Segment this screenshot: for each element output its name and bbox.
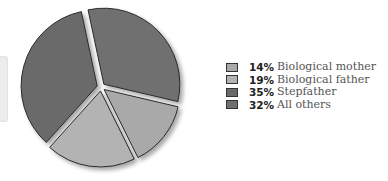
chart-legend: 14% Biological mother 19% Biological fat… — [226, 61, 386, 111]
legend-label: Stepfather — [277, 86, 336, 98]
legend-swatch — [226, 100, 238, 109]
legend-item-biological-mother: 14% Biological mother — [226, 61, 386, 74]
pie-chart-svg — [0, 0, 210, 181]
slice-all-others — [88, 8, 180, 101]
legend-percent: 32% — [249, 99, 277, 111]
legend-percent: 35% — [249, 86, 277, 98]
legend-swatch — [226, 88, 238, 97]
legend-percent: 14% — [249, 61, 277, 73]
legend-label: Biological father — [277, 74, 370, 86]
pie-chart — [0, 0, 210, 181]
legend-item-stepfather: 35% Stepfather — [226, 86, 386, 99]
legend-percent: 19% — [249, 74, 277, 86]
legend-item-all-others: 32% All others — [226, 99, 386, 112]
legend-label: Biological mother — [277, 61, 376, 73]
legend-swatch — [226, 63, 238, 72]
legend-swatch — [226, 75, 238, 84]
legend-item-biological-father: 19% Biological father — [226, 74, 386, 87]
legend-label: All others — [277, 99, 331, 111]
